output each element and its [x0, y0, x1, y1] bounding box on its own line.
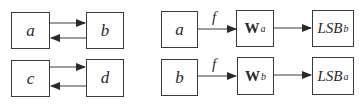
node-lsbb: LSBb	[312, 10, 354, 47]
wb-main: W	[245, 68, 260, 85]
edge-label-f-top: f	[212, 9, 216, 26]
node-c-label: c	[27, 69, 35, 89]
edge-label-f-bottom: f	[212, 56, 216, 73]
node-lsba: LSBa	[312, 57, 354, 95]
input-b-label: b	[175, 68, 184, 88]
node-b-label: b	[101, 21, 110, 41]
wa-sub: a	[261, 23, 266, 34]
input-a-label: a	[175, 20, 184, 40]
lsba-sub: a	[344, 71, 349, 82]
lsbb-sub: b	[344, 23, 349, 34]
lsbb-main: LSB	[317, 20, 342, 37]
node-wb: Wb	[237, 57, 274, 95]
node-wa: Wa	[236, 10, 274, 47]
wb-sub: b	[261, 71, 266, 82]
node-b-left: b	[86, 12, 124, 49]
node-a-left: a	[11, 12, 50, 49]
node-d: d	[86, 59, 124, 97]
lsba-main: LSB	[317, 68, 342, 85]
node-b-right: b	[161, 59, 198, 96]
node-c: c	[11, 60, 50, 97]
node-d-label: d	[101, 68, 110, 88]
node-a-label: a	[26, 21, 35, 41]
wa-main: W	[245, 20, 260, 37]
node-a-right: a	[161, 11, 198, 48]
